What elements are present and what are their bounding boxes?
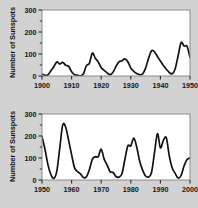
- x-tick-label-bottom: 2000: [182, 185, 198, 194]
- y-tick-label-top: 100: [25, 50, 37, 59]
- x-tick-label-top: 1950: [182, 81, 198, 90]
- plot-area-top: 0100200300190019101920193019401950: [0, 0, 198, 104]
- x-tick-label-top: 1930: [123, 81, 139, 90]
- x-tick-label-bottom: 1990: [152, 185, 168, 194]
- y-tick-label-bottom: 200: [25, 132, 37, 141]
- x-tick-label-bottom: 1960: [64, 185, 80, 194]
- sunspot-figure: Number of Sunspots 010020030019001910192…: [0, 0, 198, 208]
- x-tick-label-bottom: 1950: [34, 185, 50, 194]
- x-tick-label-bottom: 1970: [93, 185, 109, 194]
- chart-panel-bottom: Number of Sunspots 010020030019501960197…: [0, 104, 198, 208]
- y-tick-label-top: 0: [33, 72, 37, 81]
- chart-panel-top: Number of Sunspots 010020030019001910192…: [0, 0, 198, 104]
- y-tick-label-bottom: 100: [25, 154, 37, 163]
- x-tick-label-top: 1910: [64, 81, 80, 90]
- y-tick-label-bottom: 300: [25, 110, 37, 119]
- x-tick-label-top: 1920: [93, 81, 109, 90]
- x-tick-label-bottom: 1980: [123, 185, 139, 194]
- x-tick-label-top: 1940: [152, 81, 168, 90]
- plot-area-bottom: 0100200300195019601970198019902000: [0, 104, 198, 208]
- y-tick-label-top: 300: [25, 6, 37, 15]
- y-tick-label-bottom: 0: [33, 176, 37, 185]
- x-tick-label-top: 1900: [34, 81, 50, 90]
- y-tick-label-top: 200: [25, 28, 37, 37]
